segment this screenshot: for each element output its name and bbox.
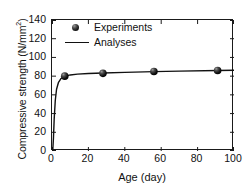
x-axis-tick-label: 60	[140, 153, 180, 164]
legend-marker-icon	[64, 21, 90, 34]
chart-figure: Compressive strength (N/mm2) 02040608010…	[0, 0, 250, 193]
x-axis-tick-label: 20	[67, 153, 107, 164]
x-axis-tick-label: 100	[213, 153, 250, 164]
x-axis-tick-label: 40	[104, 153, 144, 164]
x-axis-tick-label: 80	[177, 153, 217, 164]
y-axis-tick-label: 100	[6, 51, 46, 61]
y-axis-tick-label: 80	[6, 70, 46, 80]
data-point	[214, 67, 222, 75]
y-axis-tick-label: 40	[6, 108, 46, 118]
legend-item-experiments: Experiments	[64, 21, 182, 34]
y-axis-tick-label: 140	[6, 14, 46, 24]
legend-line-icon	[64, 36, 90, 49]
x-axis-tick-label: 0	[31, 153, 71, 164]
legend-item-analyses: Analyses	[64, 36, 182, 49]
y-axis-tick-label: 20	[6, 126, 46, 136]
data-point	[150, 68, 158, 76]
legend-label-analyses: Analyses	[90, 36, 137, 49]
legend-label-experiments: Experiments	[90, 21, 152, 34]
chart-legend: Experiments Analyses	[64, 21, 182, 51]
data-point	[99, 70, 107, 78]
data-point	[61, 72, 69, 80]
y-axis-tick-label: 60	[6, 89, 46, 99]
analyses-line-series	[53, 70, 234, 151]
x-axis-label: Age (day)	[51, 170, 233, 184]
y-axis-tick-label: 120	[6, 33, 46, 43]
